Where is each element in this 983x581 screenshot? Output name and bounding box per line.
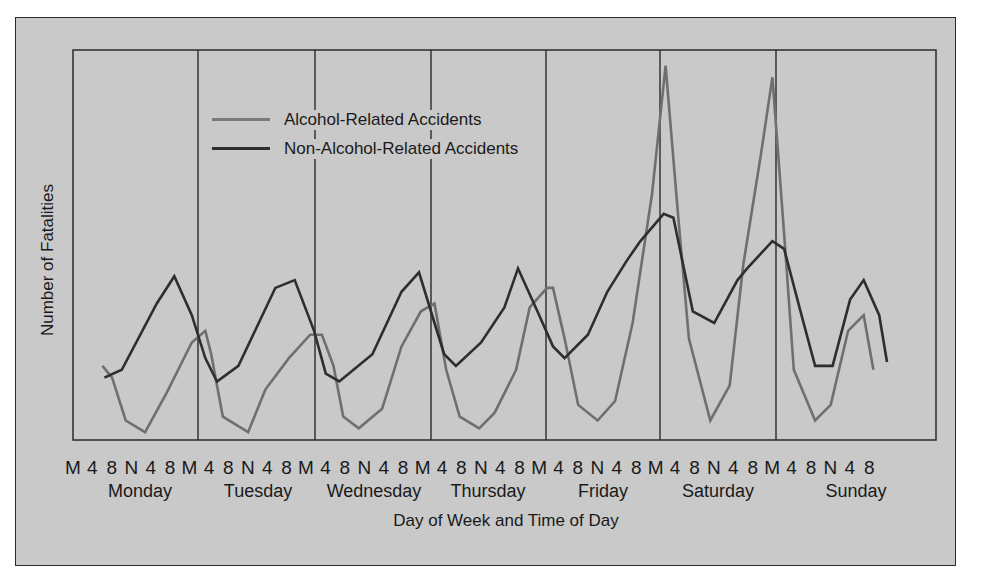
x-tick-label: 4 (553, 457, 564, 479)
x-tick-label: 8 (747, 457, 758, 479)
x-tick-label: M (531, 457, 547, 479)
legend-label-alcohol: Alcohol-Related Accidents (284, 110, 486, 130)
x-tick-label: 8 (398, 457, 409, 479)
x-tick-label: 4 (611, 457, 622, 479)
x-tick-label: 4 (262, 457, 273, 479)
x-tick-label: 4 (437, 457, 448, 479)
x-tick-label: 8 (864, 457, 875, 479)
x-tick-label: N (357, 457, 371, 479)
x-tick-label: M (764, 457, 780, 479)
x-tick-label: 4 (786, 457, 797, 479)
x-tick-label: 8 (456, 457, 467, 479)
legend-swatch-non-alcohol (212, 147, 270, 150)
x-tick-label: 8 (689, 457, 700, 479)
day-label-sunday: Sunday (825, 481, 886, 502)
x-tick-label: 4 (845, 457, 856, 479)
x-tick-label: 8 (631, 457, 642, 479)
x-tick-label: 8 (165, 457, 176, 479)
day-label-saturday: Saturday (682, 481, 754, 502)
x-tick-label: 8 (223, 457, 234, 479)
x-tick-label: 4 (670, 457, 681, 479)
x-tick-label: M (648, 457, 664, 479)
x-tick-label: M (65, 457, 81, 479)
x-axis-label: Day of Week and Time of Day (393, 511, 619, 531)
x-tick-label: N (824, 457, 838, 479)
x-tick-label: 8 (107, 457, 118, 479)
non-alcohol-series-line (104, 214, 887, 382)
day-label-friday: Friday (578, 481, 628, 502)
x-tick-label: 4 (145, 457, 156, 479)
x-tick-label: 8 (340, 457, 351, 479)
x-tick-label: 8 (573, 457, 584, 479)
x-tick-label: 4 (87, 457, 98, 479)
x-tick-label: 4 (378, 457, 389, 479)
x-tick-label: N (590, 457, 604, 479)
x-tick-label: N (707, 457, 721, 479)
x-tick-label: M (415, 457, 431, 479)
legend-item-alcohol: Alcohol-Related Accidents (212, 105, 522, 134)
x-tick-label: M (182, 457, 198, 479)
x-tick-label: N (241, 457, 255, 479)
x-tick-label: 8 (514, 457, 525, 479)
x-tick-label: M (298, 457, 314, 479)
day-label-wednesday: Wednesday (327, 481, 422, 502)
day-label-monday: Monday (108, 481, 172, 502)
x-tick-label: 4 (320, 457, 331, 479)
legend-item-non-alcohol: Non-Alcohol-Related Accidents (212, 134, 522, 163)
y-axis-label: Number of Fatalities (38, 184, 58, 336)
day-label-tuesday: Tuesday (224, 481, 292, 502)
legend-swatch-alcohol (212, 118, 270, 121)
x-tick-label: 4 (728, 457, 739, 479)
x-tick-label: 4 (495, 457, 506, 479)
legend: Alcohol-Related Accidents Non-Alcohol-Re… (212, 105, 522, 163)
x-tick-label: N (124, 457, 138, 479)
x-tick-label: 8 (806, 457, 817, 479)
day-label-thursday: Thursday (450, 481, 525, 502)
x-tick-label: 4 (204, 457, 215, 479)
legend-label-non-alcohol: Non-Alcohol-Related Accidents (284, 139, 522, 159)
x-tick-label: N (474, 457, 488, 479)
x-tick-label: 8 (281, 457, 292, 479)
